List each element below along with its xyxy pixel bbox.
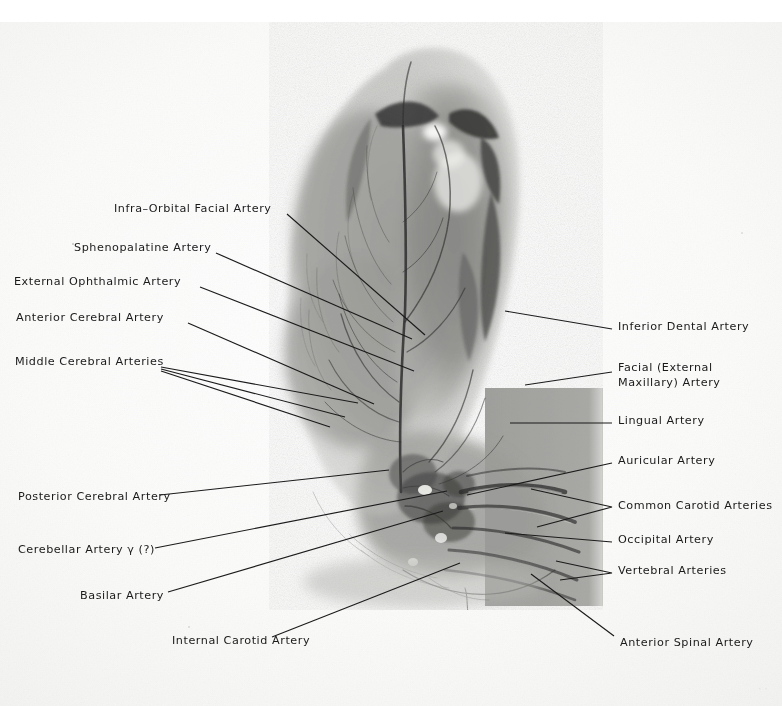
- label-internal-carotid-artery: Internal Carotid Artery: [172, 634, 310, 648]
- label-middle-cerebral-arteries: Middle Cerebral Arteries: [15, 355, 164, 369]
- label-inferior-dental-artery: Inferior Dental Artery: [618, 320, 749, 334]
- label-posterior-cerebral-artery: Posterior Cerebral Artery: [18, 490, 171, 504]
- label-infra-orbital-facial-artery: Infra–Orbital Facial Artery: [114, 202, 272, 216]
- ink-speck: [72, 243, 74, 245]
- label-vertebral-arteries: Vertebral Arteries: [618, 564, 727, 578]
- label-facial-external-maxillary-artery: Facial (External Maxillary) Artery: [618, 361, 768, 390]
- plate-corner-caption: · ·: [759, 685, 768, 694]
- label-anterior-cerebral-artery: Anterior Cerebral Artery: [16, 311, 164, 325]
- label-sphenopalatine-artery: Sphenopalatine Artery: [74, 241, 211, 255]
- label-anterior-spinal-artery: Anterior Spinal Artery: [620, 636, 754, 650]
- label-basilar-artery: Basilar Artery: [80, 589, 164, 603]
- label-lingual-artery: Lingual Artery: [618, 414, 705, 428]
- label-external-ophthalmic-artery: External Ophthalmic Artery: [14, 275, 181, 289]
- ink-speck: [188, 626, 190, 628]
- label-auricular-artery: Auricular Artery: [618, 454, 715, 468]
- plate-top-margin: [0, 0, 782, 22]
- radiograph-svg: [253, 22, 603, 610]
- radiograph-image: [253, 22, 603, 610]
- ink-speck: [741, 232, 743, 234]
- label-cerebellar-artery-gamma: Cerebellar Artery γ (?): [18, 543, 155, 557]
- label-occipital-artery: Occipital Artery: [618, 533, 714, 547]
- label-common-carotid-arteries: Common Carotid Arteries: [618, 499, 773, 513]
- angiogram-plate: Infra–Orbital Facial Artery Sphenopalati…: [0, 0, 782, 706]
